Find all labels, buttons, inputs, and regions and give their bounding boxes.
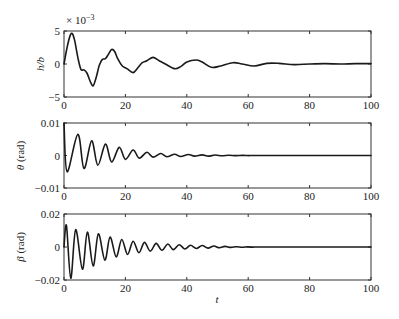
data-line-beta [64,225,371,279]
x-tick-label: 0 [61,190,67,202]
y-tick-label: 0.01 [41,117,60,129]
figure: × 10−3 020406080100−505h/b 020406080100−… [0,0,399,319]
x-axis-label: t [215,293,219,305]
y-axis-label: β (rad) [14,232,27,263]
x-tick-label: 20 [120,282,132,294]
x-tick-label: 20 [120,99,132,111]
x-tick-label: 100 [363,99,380,111]
y-axis-label: h/b [34,56,46,71]
y-multiplier-exponent: −3 [86,13,95,22]
panel-beta: 020406080100−0.0200.02β (rad) [14,208,380,294]
x-tick-label: 60 [243,99,255,111]
x-tick-label: 80 [304,190,316,202]
x-tick-label: 80 [304,282,316,294]
x-tick-label: 60 [243,282,255,294]
x-tick-label: 20 [120,190,132,202]
y-tick-label: −0.01 [35,182,60,194]
x-tick-label: 100 [363,282,380,294]
y-tick-label: 0 [55,58,61,70]
y-tick-label: 0 [55,241,61,253]
x-tick-label: 100 [363,190,380,202]
y-tick-label: −0.02 [35,274,60,286]
x-tick-label: 40 [181,190,193,202]
x-tick-label: 60 [243,190,255,202]
panel-theta: 020406080100−0.0100.01θ (rad) [14,117,380,202]
y-multiplier-label: × 10−3 [66,13,94,26]
data-line-theta [64,123,371,172]
x-tick-label: 0 [61,282,67,294]
y-tick-label: 0 [55,150,61,162]
x-tick-label: 40 [181,282,193,294]
y-tick-label: 5 [55,25,61,37]
y-axis-label: θ (rad) [14,140,27,170]
x-tick-label: 80 [304,99,316,111]
panel-hb: × 10−3 020406080100−505h/b [34,13,380,111]
x-tick-label: 0 [61,99,67,111]
x-tick-label: 40 [181,99,193,111]
y-tick-label: 0.02 [41,208,60,220]
y-tick-label: −5 [48,91,60,103]
data-line-hb [64,33,371,86]
